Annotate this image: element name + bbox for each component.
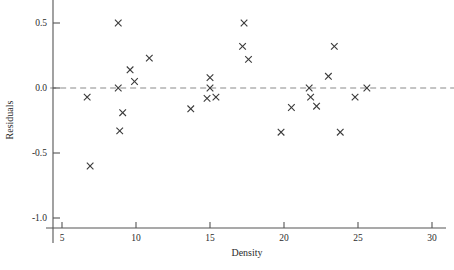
data-point-marker — [337, 129, 344, 136]
y-axis-ticks: 0.50.0-0.5-1.0 — [32, 18, 60, 223]
data-point-marker — [146, 55, 153, 62]
data-point-marker — [288, 104, 295, 111]
data-point-marker — [187, 106, 194, 113]
x-axis-title: Density — [231, 247, 262, 258]
data-points — [84, 20, 370, 170]
data-point-marker — [239, 43, 246, 50]
data-point-marker — [307, 94, 314, 101]
data-point-marker — [204, 95, 211, 102]
data-point-marker — [115, 20, 122, 27]
x-tick-label: 25 — [353, 233, 363, 243]
scatter-plot-canvas: 51015202530 0.50.0-0.5-1.0 Density Resid… — [0, 0, 454, 270]
data-point-marker — [116, 128, 123, 135]
data-point-marker — [207, 74, 214, 81]
x-tick-label: 5 — [60, 233, 65, 243]
y-tick-label: -1.0 — [32, 213, 47, 223]
y-tick-label: 0.5 — [35, 18, 47, 28]
x-tick-label: 20 — [279, 233, 289, 243]
data-point-marker — [213, 94, 220, 101]
data-point-marker — [245, 56, 252, 63]
y-tick-label: -0.5 — [32, 148, 47, 158]
data-point-marker — [278, 129, 285, 136]
x-tick-label: 15 — [205, 233, 215, 243]
data-point-marker — [119, 109, 126, 116]
data-point-marker — [331, 43, 338, 50]
y-tick-label: 0.0 — [35, 83, 47, 93]
plot-axes — [46, 0, 446, 243]
data-point-marker — [131, 78, 138, 85]
residual-scatter-figure: 51015202530 0.50.0-0.5-1.0 Density Resid… — [0, 0, 454, 270]
x-tick-label: 10 — [131, 233, 141, 243]
data-point-marker — [127, 67, 134, 74]
data-point-marker — [313, 103, 320, 110]
x-tick-label: 30 — [427, 233, 437, 243]
x-axis-ticks: 51015202530 — [60, 222, 437, 243]
y-axis-title: Residuals — [4, 100, 15, 139]
data-point-marker — [84, 94, 91, 101]
data-point-marker — [87, 163, 94, 170]
data-point-marker — [241, 20, 248, 27]
data-point-marker — [352, 94, 359, 101]
data-point-marker — [325, 73, 332, 80]
